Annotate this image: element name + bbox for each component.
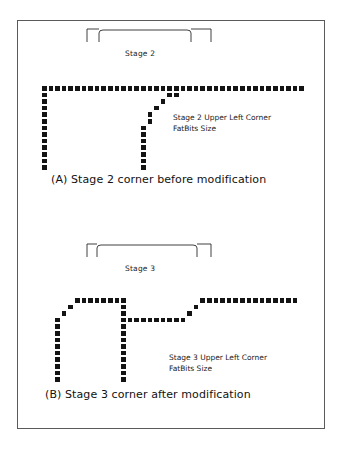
pixel-cell	[232, 297, 239, 304]
pixel-cell	[120, 304, 127, 311]
pixel-cell	[239, 297, 246, 304]
panel-b: Stage 3 Stage 3 Upper Left Corner FatBit…	[18, 21, 324, 428]
pixel-cell	[140, 317, 147, 324]
pixel-cell	[226, 297, 233, 304]
pixel-cell	[160, 317, 167, 324]
pixel-cell	[61, 310, 68, 317]
pixel-cell	[120, 337, 127, 344]
pixel-cell	[120, 356, 127, 363]
pixel-cell	[120, 363, 127, 370]
pixel-cell	[173, 317, 180, 324]
pixel-cell	[54, 356, 61, 363]
pixel-cell	[246, 297, 253, 304]
pixel-cell	[272, 297, 279, 304]
pixel-cell	[120, 297, 127, 304]
pixel-cell	[54, 370, 61, 377]
pixel-cell	[100, 297, 107, 304]
pixel-cell	[199, 297, 206, 304]
caption-b: (B) Stage 3 corner after modification	[45, 388, 251, 401]
pixel-cell	[193, 304, 200, 311]
pixel-cell	[259, 297, 266, 304]
pixel-cell	[279, 297, 286, 304]
stage-bracket-b	[85, 242, 213, 259]
figure-frame: Stage 2 Stage 2 Upper Left Corner FatBit…	[17, 20, 325, 429]
pixel-cell	[120, 317, 127, 324]
pixel-cell	[107, 297, 114, 304]
pixel-cell	[213, 297, 220, 304]
pixel-cell	[87, 297, 94, 304]
pixel-cell	[81, 297, 88, 304]
pixel-cell	[54, 323, 61, 330]
pixel-cell	[153, 317, 160, 324]
pixel-cell	[120, 343, 127, 350]
pixel-cell	[120, 310, 127, 317]
pixel-cell	[74, 297, 81, 304]
pixel-cell	[186, 310, 193, 317]
pixel-cell	[219, 297, 226, 304]
pixel-cell	[94, 297, 101, 304]
pixel-cell	[147, 317, 154, 324]
pixel-cell	[54, 317, 61, 324]
pixel-cell	[54, 337, 61, 344]
pixel-cell	[54, 343, 61, 350]
pixel-cell	[54, 330, 61, 337]
pixel-cell	[54, 376, 61, 383]
pixel-cell	[67, 304, 74, 311]
pixel-cell	[54, 363, 61, 370]
pixel-cell	[120, 350, 127, 357]
pixel-cell	[166, 317, 173, 324]
pixel-cell	[252, 297, 259, 304]
pixel-cell	[120, 370, 127, 377]
annotation-b-line2: FatBits Size	[169, 364, 267, 375]
pixel-cell	[292, 297, 299, 304]
annotation-b-line1: Stage 3 Upper Left Corner	[169, 353, 267, 364]
pixel-cell	[127, 317, 134, 324]
pixel-cell	[114, 297, 121, 304]
pixel-cell	[285, 297, 292, 304]
pixel-cell	[120, 330, 127, 337]
annotation-b: Stage 3 Upper Left Corner FatBits Size	[169, 353, 267, 374]
pixel-cell	[265, 297, 272, 304]
pixel-cell	[120, 323, 127, 330]
stage-label-b: Stage 3	[125, 264, 155, 273]
pixel-cell	[133, 317, 140, 324]
pixel-cell	[54, 350, 61, 357]
pixel-cell	[206, 297, 213, 304]
pixel-cell	[180, 317, 187, 324]
pixel-cell	[120, 376, 127, 383]
